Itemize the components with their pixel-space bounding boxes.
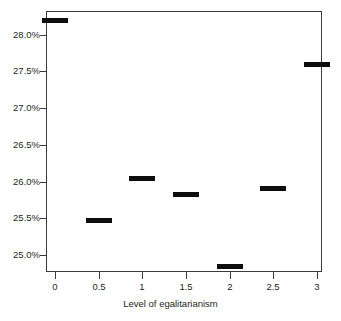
y-tick-label-26.0: 26.0%: [2, 177, 40, 187]
x-axis-title: Level of egalitarianism: [0, 298, 341, 309]
data-point-3[interactable]: [304, 62, 330, 67]
y-tick-label-26.5-wrap: 26.5%: [0, 140, 40, 150]
y-tick-label-25.0: 25.0%: [2, 250, 40, 260]
x-tick-0: [55, 272, 56, 279]
y-tick-25.5: [40, 218, 47, 219]
y-tick-27.0: [40, 108, 47, 109]
y-tick-label-26.0-wrap: 26.0%: [0, 177, 40, 187]
x-tick-label-0.5: 0.5: [79, 281, 119, 292]
data-point-2[interactable]: [217, 264, 243, 269]
y-tick-label-26.5: 26.5%: [2, 140, 40, 150]
x-tick-3: [317, 272, 318, 279]
data-point-1[interactable]: [129, 176, 155, 181]
y-tick-label-28.0-wrap: 28.0%: [0, 30, 40, 40]
x-tick-0.5: [99, 272, 100, 279]
y-tick-25.0: [40, 255, 47, 256]
y-tick-label-28.0: 28.0%: [2, 30, 40, 40]
x-tick-1: [142, 272, 143, 279]
y-tick-label-25.5: 25.5%: [2, 213, 40, 223]
plot-area: [46, 11, 322, 272]
y-tick-label-25.5-wrap: 25.5%: [0, 213, 40, 223]
y-tick-label-27.5: 27.5%: [2, 66, 40, 76]
data-point-1.5[interactable]: [173, 192, 199, 197]
x-tick-label-3: 3: [297, 281, 337, 292]
data-point-2.5[interactable]: [260, 186, 286, 191]
data-point-0.5[interactable]: [86, 218, 112, 223]
x-tick-label-0: 0: [35, 281, 75, 292]
x-tick-label-2: 2: [210, 281, 250, 292]
x-tick-1.5: [186, 272, 187, 279]
x-tick-label-2.5: 2.5: [253, 281, 293, 292]
y-tick-label-25.0-wrap: 25.0%: [0, 250, 40, 260]
y-tick-26.5: [40, 145, 47, 146]
y-tick-label-27.5-wrap: 27.5%: [0, 66, 40, 76]
y-tick-27.5: [40, 71, 47, 72]
data-point-0[interactable]: [42, 18, 68, 23]
x-tick-label-1: 1: [122, 281, 162, 292]
x-tick-label-1.5: 1.5: [166, 281, 206, 292]
y-tick-label-27.0: 27.0%: [2, 103, 40, 113]
y-tick-26.0: [40, 182, 47, 183]
y-tick-label-27.0-wrap: 27.0%: [0, 103, 40, 113]
y-tick-28.0: [40, 35, 47, 36]
x-tick-2: [230, 272, 231, 279]
x-tick-2.5: [273, 272, 274, 279]
chart-container: 25.0% 25.5% 26.0% 26.5% 27.0% 27.5% 28.0…: [0, 0, 341, 321]
